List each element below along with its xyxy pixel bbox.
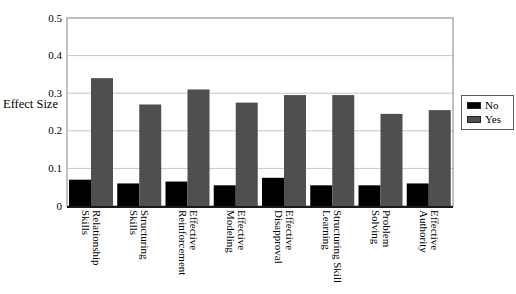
bar-no [117,183,139,206]
legend-label-yes: Yes [485,114,501,125]
x-category-label: Structuring Skills [128,210,150,260]
bar-yes [139,104,161,206]
bar-yes [284,95,306,206]
bar-yes [91,78,113,206]
y-tick-label: 0.5 [48,12,62,24]
x-category-label: Problem Solving [370,210,392,247]
bar-no [407,183,429,206]
bar-yes [429,110,451,206]
legend-label-no: No [485,100,498,111]
bar-no [214,185,236,206]
x-category-label: Effective Authority [418,210,440,253]
legend-swatch-yes-icon [467,116,481,123]
y-tick-label: 0.2 [48,124,62,136]
bar-chart-canvas: Effect Size 00.10.20.30.40.5 Relationshi… [0,0,516,294]
x-category-label: Relationship Skills [80,210,102,266]
bar-yes [332,95,354,206]
y-tick-label: 0.4 [48,49,62,61]
bar-yes [236,103,258,206]
legend-item-no: No [467,100,509,111]
y-tick-label: 0.1 [48,162,62,174]
legend-item-yes: Yes [467,114,509,125]
x-category-label: Effective Modeling [225,210,247,253]
x-category-label: Effective Disapproval [273,210,295,264]
legend-swatch-no-icon [467,102,481,109]
bar-yes [381,114,403,206]
bar-no [359,185,381,206]
bar-yes [188,89,210,206]
x-axis-labels: Relationship SkillsStructuring SkillsEff… [0,210,516,294]
bar-no [166,182,188,206]
bar-no [310,185,332,206]
legend: No Yes [461,95,514,130]
x-category-label: Structuring Skill Learning [321,210,343,283]
x-category-label: Effective Reinforcement [177,210,199,275]
bar-no [69,180,91,206]
y-tick-label: 0.3 [48,87,62,99]
bar-no [262,178,284,206]
